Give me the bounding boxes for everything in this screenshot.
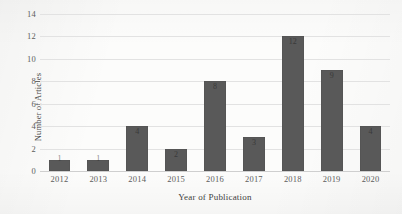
y-axis-tick-label: 14: [10, 9, 36, 19]
y-axis-tick-label: 4: [10, 121, 36, 131]
bar-value-label: 8: [204, 83, 226, 91]
bar-series: 1142831294: [40, 14, 390, 171]
bar[interactable]: 1: [49, 160, 71, 171]
bar-chart: Number of Articles 02468101214 114283129…: [0, 0, 402, 214]
bar[interactable]: 4: [360, 126, 382, 171]
x-axis-tick-label: 2016: [196, 174, 235, 184]
bar[interactable]: 9: [321, 70, 343, 171]
axis-baseline: [40, 171, 390, 172]
bar-value-label: 1: [87, 155, 109, 163]
bar-value-label: 3: [243, 139, 265, 147]
y-axis-tick-label: 6: [10, 99, 36, 109]
bar-value-label: 12: [282, 38, 304, 46]
x-axis-tick-label: 2013: [79, 174, 118, 184]
bar-value-label: 4: [360, 128, 382, 136]
bar-value-label: 2: [165, 151, 187, 159]
bar-slot: 2: [157, 14, 196, 171]
bar[interactable]: 3: [243, 137, 265, 171]
bar-value-label: 9: [321, 72, 343, 80]
x-axis-tick-label: 2014: [118, 174, 157, 184]
bar[interactable]: 8: [204, 81, 226, 171]
bar[interactable]: 1: [87, 160, 109, 171]
y-axis-tick-label: 12: [10, 31, 36, 41]
x-axis-tick-label: 2015: [157, 174, 196, 184]
y-axis-tick-label: 0: [10, 166, 36, 176]
x-axis-tick-label: 2019: [312, 174, 351, 184]
y-axis-tick-label: 8: [10, 76, 36, 86]
bar-value-label: 1: [49, 155, 71, 163]
bar-slot: 4: [118, 14, 157, 171]
x-axis-tick-label: 2017: [234, 174, 273, 184]
bar[interactable]: 12: [282, 36, 304, 171]
bar-slot: 3: [234, 14, 273, 171]
bar-slot: 9: [312, 14, 351, 171]
x-axis-ticks: 201220132014201520162017201820192020: [40, 174, 390, 184]
y-axis-tick-label: 10: [10, 54, 36, 64]
bar-slot: 1: [40, 14, 79, 171]
x-axis-tick-label: 2012: [40, 174, 79, 184]
x-axis-tick-label: 2020: [351, 174, 390, 184]
x-axis-title: Year of Publication: [40, 192, 390, 202]
bar-slot: 4: [351, 14, 390, 171]
bar-value-label: 4: [126, 128, 148, 136]
x-axis-tick-label: 2018: [273, 174, 312, 184]
y-axis-tick-label: 2: [10, 144, 36, 154]
bar[interactable]: 4: [126, 126, 148, 171]
bar-slot: 12: [273, 14, 312, 171]
bar[interactable]: 2: [165, 149, 187, 171]
bar-slot: 8: [196, 14, 235, 171]
bar-slot: 1: [79, 14, 118, 171]
